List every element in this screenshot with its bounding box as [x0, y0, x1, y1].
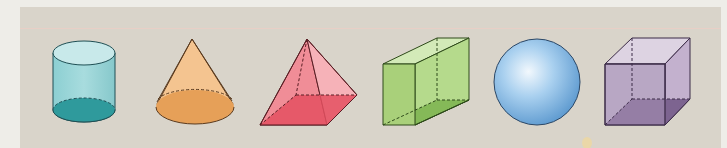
smudge: [582, 137, 592, 148]
sphere-shape: [494, 39, 580, 125]
pyramid-shape: [260, 39, 357, 125]
solids-illustration: [0, 0, 727, 148]
cone-shape: [156, 39, 234, 124]
rectangular-prism-shape: [383, 38, 469, 125]
cylinder-shape: [53, 41, 115, 122]
cube-shape: [605, 38, 690, 125]
